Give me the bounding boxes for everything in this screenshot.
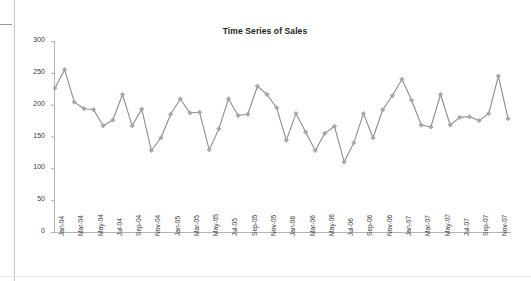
x-axis-tick-label: May-05: [212, 214, 219, 236]
x-axis-tick-label: Jul-04: [116, 218, 123, 236]
x-axis-tick-label: Sep-06: [366, 215, 373, 236]
series-markers: [53, 67, 510, 164]
y-axis-tick-label: 300: [19, 36, 45, 43]
x-axis-tick-label: Sep-05: [251, 215, 258, 236]
data-point-marker: [371, 136, 375, 140]
data-point-marker: [130, 123, 134, 127]
x-axis-tick-label: Nov-06: [386, 215, 393, 236]
data-point-marker: [246, 112, 250, 116]
y-axis-tick-label: 250: [19, 68, 45, 75]
data-point-marker: [62, 67, 66, 71]
x-axis-tick-label: Jan-04: [58, 216, 65, 236]
x-axis-tick-label: Nov-07: [501, 215, 508, 236]
axes: [51, 41, 511, 233]
data-point-marker: [409, 98, 413, 102]
data-point-marker: [236, 113, 240, 117]
y-axis-tick-label: 50: [19, 195, 45, 202]
y-axis-tick-label: 150: [19, 132, 45, 139]
data-point-marker: [400, 77, 404, 81]
x-axis-tick-label: Nov-05: [270, 215, 277, 236]
x-axis-tick-label: May-07: [444, 214, 451, 236]
data-point-marker: [217, 127, 221, 131]
x-axis-tick-label: Jan-06: [289, 216, 296, 236]
x-axis-tick-label: Nov-04: [154, 215, 161, 236]
x-axis-tick-label: May-06: [328, 214, 335, 236]
data-point-marker: [361, 111, 365, 115]
x-axis-tick-label: Sep-04: [135, 215, 142, 236]
x-axis-tick-label: Mar-05: [193, 215, 200, 236]
data-point-marker: [352, 141, 356, 145]
data-point-marker: [140, 107, 144, 111]
x-axis-tick-label: Jul-05: [231, 218, 238, 236]
data-point-marker: [438, 92, 442, 96]
data-point-marker: [313, 148, 317, 152]
x-axis-tick-label: Mar-06: [309, 215, 316, 236]
data-point-marker: [120, 92, 124, 96]
data-point-marker: [419, 123, 423, 127]
x-axis-tick-label: May-04: [97, 214, 104, 236]
x-axis-tick-label: Jul-07: [463, 218, 470, 236]
y-axis-tick-label: 200: [19, 100, 45, 107]
y-axis-tick-label: 100: [19, 163, 45, 170]
data-point-marker: [294, 111, 298, 115]
data-point-marker: [506, 116, 510, 120]
data-point-marker: [342, 160, 346, 164]
data-point-marker: [284, 138, 288, 142]
time-series-chart: Time Series of Sales 050100150200250300 …: [0, 0, 531, 281]
plot-area: [0, 0, 531, 281]
x-axis-tick-label: Jan-05: [174, 216, 181, 236]
x-axis-tick-label: Sep-07: [482, 215, 489, 236]
x-axis-tick-label: Mar-07: [424, 215, 431, 236]
data-point-marker: [429, 125, 433, 129]
x-axis-tick-label: Mar-04: [77, 215, 84, 236]
series-line: [55, 70, 508, 162]
data-point-marker: [467, 115, 471, 119]
data-point-marker: [303, 130, 307, 134]
x-axis-tick-label: Jul-06: [347, 218, 354, 236]
data-point-marker: [496, 74, 500, 78]
data-point-marker: [207, 148, 211, 152]
data-series-sales: [53, 67, 510, 164]
y-axis-tick-label: 0: [19, 227, 45, 234]
data-point-marker: [53, 86, 57, 90]
x-axis-tick-label: Jan-07: [405, 216, 412, 236]
data-point-marker: [197, 110, 201, 114]
data-point-marker: [226, 97, 230, 101]
